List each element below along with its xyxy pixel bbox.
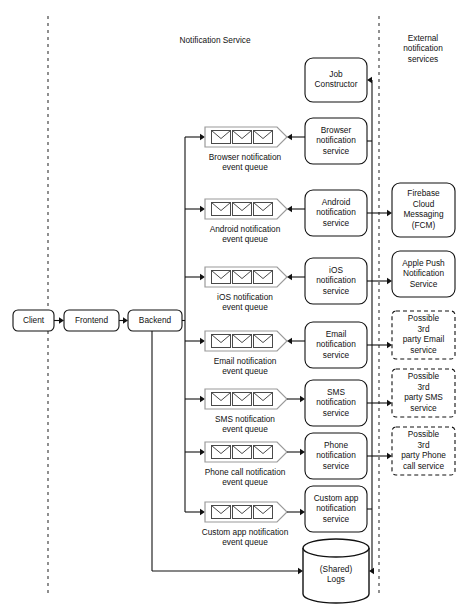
envelope-icon xyxy=(254,446,273,459)
envelope-icon xyxy=(254,335,273,348)
queue-custom-app[interactable] xyxy=(205,502,287,522)
queue-android[interactable] xyxy=(205,199,287,219)
arrow-head xyxy=(300,449,305,455)
envelope-icon xyxy=(233,506,252,519)
arrow-head xyxy=(200,206,205,212)
queue-sms-label: SMS notificationevent queue xyxy=(215,414,275,435)
row-custom-app: Custom appnotificationserviceCustom app … xyxy=(185,486,367,547)
service-android[interactable]: Androidnotificationservice xyxy=(305,190,367,236)
row-android: AndroidnotificationserviceAndroid notifi… xyxy=(185,190,367,244)
shared-logs[interactable]: (Shared)Logs xyxy=(303,539,369,603)
arrow-head xyxy=(200,509,205,515)
queue-ios[interactable] xyxy=(205,267,287,287)
arrow-head xyxy=(387,453,392,459)
envelope-icon xyxy=(233,393,252,406)
client-label: Client xyxy=(23,315,45,325)
arrow-head xyxy=(287,134,292,140)
queue-phone-label: Phone call notificationevent queue xyxy=(205,467,286,488)
external-fcm[interactable]: FirebaseCloudMessaging(FCM) xyxy=(392,183,455,237)
arrow-head xyxy=(200,134,205,140)
zone-label-external-services: Externalnotificationservices xyxy=(403,33,443,64)
arrow-head xyxy=(367,77,372,83)
row-browser: BrowsernotificationserviceBrowser notifi… xyxy=(185,118,367,172)
queue-android-label: Android notificationevent queue xyxy=(210,224,281,245)
row-email: EmailnotificationserviceEmail notificati… xyxy=(185,322,367,376)
external-sms3p[interactable]: Possible3rdparty SMSservice xyxy=(392,369,455,417)
queue-phone[interactable] xyxy=(205,442,287,462)
zone-label-text-notification-service: Notification Service xyxy=(179,35,250,45)
queue-custom-app-label: Custom app notificationevent queue xyxy=(202,527,289,548)
arrow-head xyxy=(298,568,303,574)
arrow-head xyxy=(123,317,128,323)
envelope-icon xyxy=(233,203,252,216)
envelope-icon xyxy=(254,393,273,406)
envelope-icon xyxy=(212,271,231,284)
service-custom-app[interactable]: Custom appnotificationservice xyxy=(305,486,367,532)
envelope-icon xyxy=(233,271,252,284)
service-external-bus xyxy=(367,77,372,571)
service-sms[interactable]: SMSnotificationservice xyxy=(305,380,367,426)
zone-label-notification-service: Notification Service xyxy=(179,35,250,45)
arrow-head xyxy=(287,206,292,212)
client-chain: ClientFrontendBackend xyxy=(13,310,182,331)
external-email3p[interactable]: Possible3rdparty Emailservice xyxy=(392,311,455,359)
service-browser[interactable]: Browsernotificationservice xyxy=(305,118,367,164)
envelope-icon xyxy=(212,393,231,406)
envelope-icon xyxy=(254,506,273,519)
envelope-icon xyxy=(212,203,231,216)
arrow-head xyxy=(300,509,305,515)
row-phone: PhonenotificationservicePhone call notif… xyxy=(185,433,367,487)
envelope-icon xyxy=(233,446,252,459)
envelope-icon xyxy=(233,131,252,144)
envelope-icon xyxy=(254,131,273,144)
envelope-icon xyxy=(212,335,231,348)
database-cylinder-icon xyxy=(303,539,369,557)
arrow-head xyxy=(200,274,205,280)
arrow-head xyxy=(387,210,392,216)
external-services: FirebaseCloudMessaging(FCM)Apple PushNot… xyxy=(372,183,455,475)
row-sms: SMSnotificationserviceSMS notificationev… xyxy=(185,380,367,434)
envelope-icon xyxy=(233,335,252,348)
zone-label-text-external-services: Externalnotificationservices xyxy=(403,33,443,64)
frontend-label: Frontend xyxy=(75,315,109,325)
service-ios[interactable]: iOSnotificationservice xyxy=(305,258,367,304)
queue-email[interactable] xyxy=(205,331,287,351)
envelope-icon xyxy=(212,446,231,459)
node-frontend[interactable]: Frontend xyxy=(64,310,119,331)
arrow-head xyxy=(200,396,205,402)
row-ios: iOSnotificationserviceiOS notificationev… xyxy=(185,258,367,312)
queue-browser[interactable] xyxy=(205,127,287,147)
arrow-head xyxy=(300,396,305,402)
arrow-head xyxy=(387,342,392,348)
backend-label: Backend xyxy=(139,315,172,325)
arrow-head xyxy=(287,274,292,280)
service-phone[interactable]: Phonenotificationservice xyxy=(305,433,367,479)
node-backend[interactable]: Backend xyxy=(128,310,182,331)
envelope-icon xyxy=(212,506,231,519)
arrow-head xyxy=(200,449,205,455)
queue-email-label: Email notificationevent queue xyxy=(214,356,277,377)
architecture-diagram: Notification ServiceExternalnotification… xyxy=(0,0,462,608)
job-constructor[interactable]: JobConstructor xyxy=(305,58,367,102)
queue-ios-label: iOS notificationevent queue xyxy=(217,292,273,313)
service-email[interactable]: Emailnotificationservice xyxy=(305,322,367,368)
external-apns[interactable]: Apple PushNotificationService xyxy=(392,251,455,297)
envelope-icon xyxy=(254,203,273,216)
arrow-head xyxy=(387,278,392,284)
node-client[interactable]: Client xyxy=(13,310,54,331)
envelope-icon xyxy=(254,271,273,284)
queue-sms[interactable] xyxy=(205,389,287,409)
envelope-icon xyxy=(212,131,231,144)
external-phone3p[interactable]: Possible3rdparty Phonecall service xyxy=(392,427,455,475)
arrow-head xyxy=(59,317,64,323)
arrow-head xyxy=(387,400,392,406)
arrow-head xyxy=(200,338,205,344)
arrow-head xyxy=(287,338,292,344)
queue-browser-label: Browser notificationevent queue xyxy=(209,152,282,173)
